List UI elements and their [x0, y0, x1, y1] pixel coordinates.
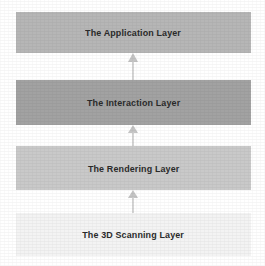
layer-box-application[interactable]: The Application Layer: [16, 12, 251, 53]
layer-box-interaction[interactable]: The Interaction Layer: [16, 80, 251, 125]
layer-label-rendering: The Rendering Layer: [88, 163, 180, 174]
layer-label-scanning: The 3D Scanning Layer: [83, 229, 185, 240]
layer-label-interaction: The Interaction Layer: [87, 97, 180, 108]
arrow-up-icon-rendering-to-interaction: [126, 125, 140, 146]
arrow-up-glyph: [126, 125, 140, 146]
arrow-up-glyph: [126, 190, 140, 213]
arrow-up-icon-interaction-to-application: [126, 53, 140, 80]
layer-box-rendering[interactable]: The Rendering Layer: [16, 146, 251, 190]
arrow-up-icon-scanning-to-rendering: [126, 190, 140, 213]
layer-stack: The Application Layer The Interaction La…: [0, 0, 265, 266]
layer-label-application: The Application Layer: [86, 27, 182, 38]
arrow-up-glyph: [126, 53, 140, 80]
diagram-canvas: The Application Layer The Interaction La…: [0, 0, 265, 266]
layer-box-scanning[interactable]: The 3D Scanning Layer: [16, 213, 251, 256]
